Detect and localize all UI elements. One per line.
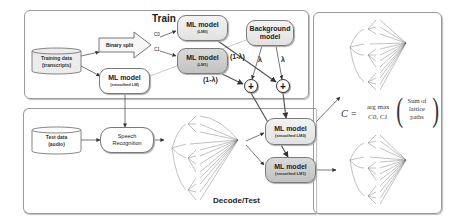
formula-arg-line3: paths	[402, 113, 432, 121]
background-model-subtitle: model	[260, 33, 281, 41]
ml-model-lm1-title: ML model	[186, 54, 219, 62]
ml-model-smoothed-lm1: ML model (smoothed LM1)	[265, 157, 316, 183]
weight-lambda-1: λ	[258, 56, 262, 63]
weight-one-minus-lambda-lm0: (1-λ)	[230, 53, 245, 60]
training-data-sublabel: (transcripts)	[42, 62, 71, 69]
weight-lambda-2: λ	[281, 56, 285, 63]
c1-label: C1	[154, 47, 160, 52]
ml-model-lm0-title: ML model	[186, 21, 219, 29]
ml-model-smoothed-lm1-subtitle: (smoothed LM1)	[275, 171, 306, 177]
ml-model-lm1-subtitle: (LM1)	[197, 62, 208, 68]
formula-operator: arg max	[367, 103, 390, 111]
connectors-layer	[0, 0, 464, 224]
ml-model-smoothed-lm1-title: ML model	[274, 163, 307, 171]
lattice-lm0	[350, 20, 406, 90]
speech-recognition-line1: Speech	[118, 133, 137, 140]
test-data-label: Test data	[46, 134, 68, 141]
formula-right-paren: )	[432, 93, 439, 127]
formula-arg-line1: Sum of	[402, 97, 432, 105]
ml-model-smoothed-lm0: ML model (smoothed LM0)	[265, 118, 316, 145]
plus-node-1: +	[244, 79, 258, 93]
lattice-lm1	[350, 135, 406, 204]
ml-model-smoothed-lm-title: ML model	[108, 74, 141, 82]
decode-lattice	[172, 116, 238, 200]
formula-subscript: C0, C1	[368, 113, 388, 121]
speech-recognition-line2: Recognition	[112, 140, 141, 147]
background-model-title: Background	[250, 25, 291, 33]
ml-model-smoothed-lm-subtitle: (smoothed LM)	[110, 82, 139, 88]
formula-lhs: C =	[341, 108, 357, 119]
ml-model-smoothed-lm0-subtitle: (smoothed LM0)	[275, 133, 306, 139]
diagram-canvas: Training data (transcripts) Test data (a…	[0, 0, 464, 224]
ml-model-lm0-subtitle: (LM0)	[197, 29, 208, 35]
speech-recognition: Speech Recognition	[100, 127, 154, 153]
background-model: Background model	[246, 20, 294, 46]
ml-model-lm1: ML model (LM1)	[177, 48, 228, 74]
c0-label: C0	[154, 32, 160, 37]
plus-node-2: +	[276, 79, 290, 93]
test-data-sublabel: (audio)	[48, 141, 65, 148]
training-data-label: Training data	[41, 55, 72, 62]
formula-argument: Sum of lattice paths	[402, 97, 432, 121]
test-data-source: Test data (audio)	[32, 131, 81, 151]
binary-split-label: Binary split	[106, 42, 133, 48]
decode-test-title: Decode/Test	[213, 196, 260, 205]
ml-model-smoothed-lm: ML model (smoothed LM)	[99, 68, 150, 94]
ml-model-smoothed-lm0-title: ML model	[274, 125, 307, 133]
training-data-source: Training data (transcripts)	[32, 52, 81, 72]
ml-model-lm0: ML model (LM0)	[177, 15, 228, 41]
weight-one-minus-lambda-lm1: (1-λ)	[203, 76, 218, 83]
formula-arg-line2: lattice	[402, 105, 432, 113]
train-title: Train	[152, 13, 176, 24]
